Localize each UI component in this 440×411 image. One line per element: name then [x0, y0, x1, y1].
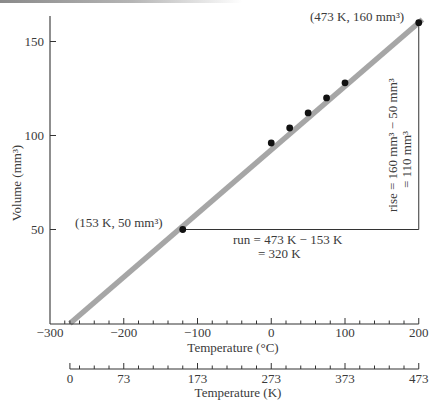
point-label-high: (473 K, 160 mm³)	[310, 9, 404, 24]
point-label-low: (153 K, 50 mm³)	[75, 215, 163, 230]
run-annotation-line2: = 320 K	[258, 246, 301, 261]
x-axis-celsius: −300−200−1000100200	[37, 318, 429, 340]
y-axis: 50100150	[25, 16, 57, 324]
x-tick-label-celsius: 200	[409, 325, 429, 340]
x-tick-label-celsius: 0	[268, 325, 275, 340]
data-point	[415, 19, 422, 26]
x-axis-label-celsius: Temperature (°C)	[187, 340, 278, 355]
x-tick-label-kelvin: 73	[117, 371, 130, 386]
data-point	[179, 226, 186, 233]
rise-annotation-line1: rise = 160 mm³ − 50 mm³	[385, 78, 400, 212]
x-tick-label-celsius: −100	[184, 325, 211, 340]
y-tick-label: 150	[25, 34, 45, 49]
x-axis-label-kelvin: Temperature (K)	[195, 385, 282, 400]
x-axis-kelvin: 073173273373473	[67, 363, 429, 386]
x-tick-label-kelvin: 473	[409, 371, 429, 386]
x-tick-label-kelvin: 0	[67, 371, 74, 386]
volume-temperature-chart: 50100150 −300−200−1000100200 07317327337…	[0, 0, 440, 411]
run-annotation-line1: run = 473 K − 153 K	[233, 232, 343, 247]
data-point	[268, 140, 275, 147]
data-point	[305, 110, 312, 117]
y-tick-label: 100	[25, 128, 45, 143]
data-point	[286, 125, 293, 132]
x-tick-label-kelvin: 373	[335, 371, 355, 386]
x-tick-label-celsius: −200	[110, 325, 137, 340]
x-tick-label-celsius: −300	[37, 325, 64, 340]
x-tick-label-kelvin: 273	[262, 371, 282, 386]
charles-law-line	[70, 20, 423, 324]
y-tick-label: 50	[31, 222, 44, 237]
y-axis-label: Volume (mm³)	[9, 145, 24, 221]
rise-annotation-line2: = 110 mm³	[399, 131, 414, 188]
data-point	[323, 95, 330, 102]
data-point	[342, 79, 349, 86]
x-tick-label-celsius: 100	[335, 325, 355, 340]
x-tick-label-kelvin: 173	[188, 371, 208, 386]
fit-line-group	[70, 20, 423, 324]
